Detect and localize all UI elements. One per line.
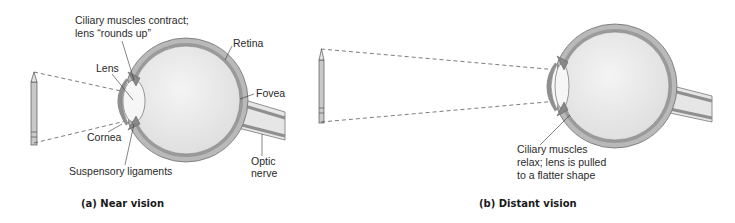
pencil-icon [319,49,324,123]
label-lens: Lens [96,62,119,74]
caption-near-vision: (a) Near vision [81,198,164,209]
eye-accommodation-diagram: Ciliary muscles contract; lens “rounds u… [0,0,735,223]
label-ciliary-relax-2: relax; lens is pulled [517,156,606,168]
label-fovea: Fovea [256,87,285,99]
label-optic-2: nerve [251,167,277,179]
label-cornea: Cornea [87,131,122,143]
caption-distant-vision: (b) Distant vision [479,198,577,209]
label-ciliary-relax-3: to a flatter shape [517,169,595,181]
label-ciliary-contract-2: lens “rounds up” [75,27,151,39]
leader-line [540,115,570,145]
eyeball [549,24,677,148]
lens-flat [555,64,569,108]
eyeball [120,38,248,162]
panel-distant-vision: Ciliary muscles relax; lens is pulled to… [319,24,712,209]
label-optic-1: Optic [251,155,276,167]
label-suspensory-ligaments: Suspensory ligaments [69,165,172,177]
panel-near-vision: Ciliary muscles contract; lens “rounds u… [31,14,285,209]
label-ciliary-relax-1: Ciliary muscles [517,143,588,155]
label-ciliary-contract-1: Ciliary muscles contract; [75,14,189,26]
lens-rounded [123,80,145,122]
label-retina: Retina [233,37,264,49]
pencil-icon [31,72,37,145]
